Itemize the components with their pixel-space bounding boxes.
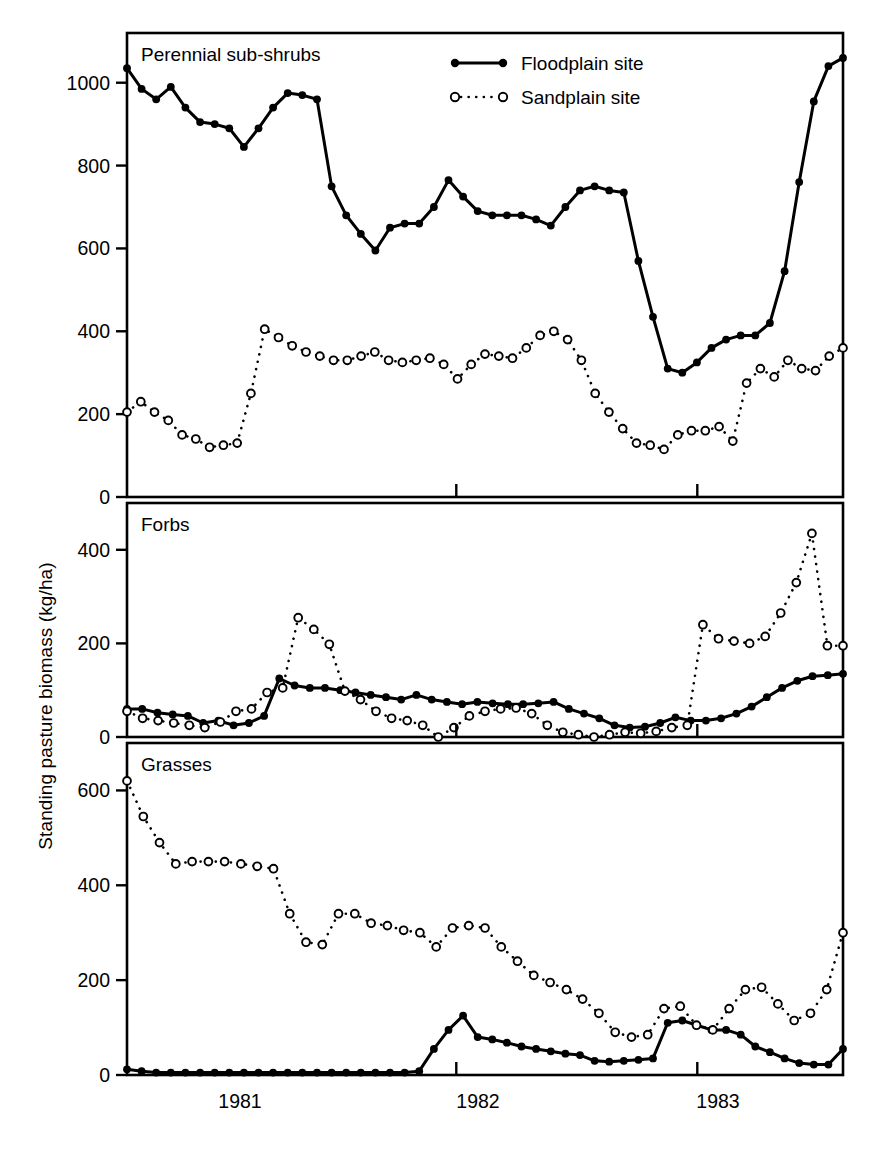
data-point — [660, 446, 668, 454]
data-point — [518, 211, 526, 219]
data-point — [467, 361, 475, 369]
data-point — [790, 1017, 798, 1025]
data-point — [401, 1069, 409, 1077]
data-point — [211, 120, 219, 128]
data-point — [481, 707, 489, 715]
data-point — [167, 83, 175, 91]
data-point — [522, 344, 530, 352]
data-point — [245, 719, 253, 727]
x-axis-year-label: 1981 — [218, 1090, 261, 1112]
data-point — [371, 348, 379, 356]
data-point — [825, 352, 833, 360]
data-point — [151, 408, 159, 416]
data-point — [261, 325, 269, 333]
data-point — [432, 943, 440, 951]
data-point — [138, 85, 146, 93]
data-point — [578, 356, 586, 364]
series-line-1 — [127, 58, 843, 373]
y-tick-label: 400 — [77, 539, 110, 561]
data-point — [263, 689, 271, 697]
data-point — [445, 1026, 453, 1034]
data-point — [342, 211, 350, 219]
data-point — [503, 1039, 511, 1047]
data-point — [808, 530, 816, 538]
figure-root: Standing pasture biomass (kg/ha) 0200400… — [0, 0, 885, 1149]
legend-item-2: Sandplain site — [451, 87, 641, 108]
data-point — [459, 193, 467, 201]
panel-frame — [127, 743, 843, 1075]
data-point — [415, 220, 423, 228]
data-point — [664, 365, 672, 373]
data-point — [466, 712, 474, 720]
data-point — [737, 332, 745, 340]
data-point — [302, 938, 310, 946]
y-tick-label: 200 — [77, 403, 110, 425]
data-point — [509, 354, 517, 362]
y-tick-label: 400 — [77, 874, 110, 896]
data-point — [275, 675, 283, 683]
data-point — [481, 924, 489, 932]
data-point — [230, 721, 238, 729]
data-point — [646, 441, 654, 449]
data-point — [825, 62, 833, 70]
y-axis-label: Standing pasture biomass (kg/ha) — [35, 386, 57, 1026]
data-point — [810, 1061, 818, 1069]
data-point — [534, 699, 542, 707]
data-point — [474, 1033, 482, 1041]
data-point — [178, 431, 186, 439]
data-point — [385, 356, 393, 364]
data-point — [341, 687, 349, 695]
data-point — [139, 714, 147, 722]
data-point — [445, 176, 453, 184]
data-point — [497, 943, 505, 951]
panel-2: 0200400Forbs — [77, 503, 846, 748]
data-point — [733, 710, 741, 718]
data-point — [512, 704, 520, 712]
data-point — [221, 858, 229, 866]
data-point — [192, 435, 200, 443]
data-point — [443, 698, 451, 706]
data-point — [253, 862, 261, 870]
data-point — [576, 187, 584, 195]
data-point — [611, 1028, 619, 1036]
data-point — [138, 1067, 146, 1075]
data-point — [674, 431, 682, 439]
panel-title: Forbs — [141, 514, 190, 535]
data-point — [123, 707, 131, 715]
data-point — [440, 361, 448, 369]
data-point — [725, 1005, 733, 1013]
data-point — [633, 439, 641, 447]
data-point — [343, 356, 351, 364]
data-point — [543, 721, 551, 729]
data-point — [839, 1045, 847, 1053]
data-point — [291, 682, 299, 690]
data-point — [660, 1005, 668, 1013]
data-point — [426, 354, 434, 362]
data-point — [415, 1067, 423, 1075]
x-axis-year-label: 1983 — [696, 1090, 739, 1112]
data-point — [137, 398, 145, 406]
data-point — [701, 427, 709, 435]
data-point — [778, 684, 786, 692]
series-line-2 — [127, 781, 843, 1037]
data-point — [628, 1033, 636, 1041]
data-point — [330, 356, 338, 364]
data-point — [668, 724, 676, 732]
series-line-2 — [127, 329, 843, 449]
data-point — [357, 1069, 365, 1077]
data-point — [382, 693, 390, 701]
data-point — [286, 910, 294, 918]
data-point — [532, 216, 540, 224]
data-point — [798, 365, 806, 373]
data-point — [605, 187, 613, 195]
data-point — [260, 712, 268, 720]
data-point — [595, 1009, 603, 1017]
data-point — [729, 437, 737, 445]
data-point — [459, 1012, 467, 1020]
data-point — [688, 427, 696, 435]
data-point — [825, 1061, 833, 1069]
data-point — [205, 858, 213, 866]
panel-frame — [127, 33, 843, 497]
data-point — [313, 95, 321, 103]
data-point — [288, 342, 296, 350]
